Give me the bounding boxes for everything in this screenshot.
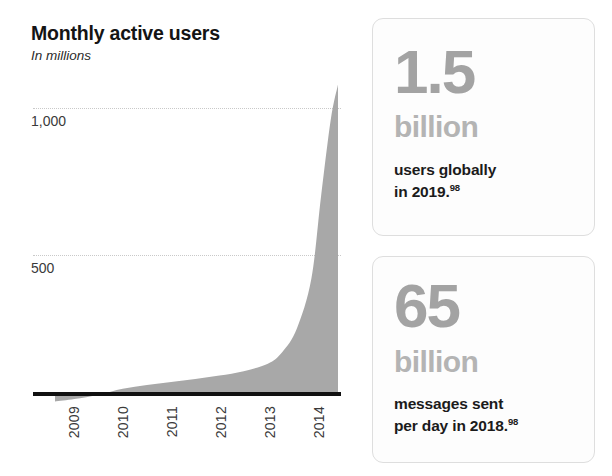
x-axis-tick-2013: 2013 <box>262 406 278 438</box>
stat-unit: billion <box>394 347 478 377</box>
chart-plot-area: 1,000 500 2009 2010 2011 2012 2013 2014 <box>0 0 360 476</box>
stat-number: 1.5 <box>394 41 474 103</box>
stat-unit: billion <box>394 112 478 142</box>
x-axis-baseline <box>33 392 341 396</box>
stat-description: messages sent per day in 2018.98 <box>394 393 582 437</box>
chart-panel: Monthly active users In millions 1,000 5… <box>0 0 360 476</box>
stat-description-line2: per day in 2018. <box>394 417 508 434</box>
stat-description-line2: in 2019. <box>394 183 450 200</box>
x-axis-tick-2011: 2011 <box>164 406 180 437</box>
x-axis-tick-2010: 2010 <box>115 406 131 438</box>
stat-description: users globally in 2019.98 <box>394 159 582 203</box>
stat-description-line1: messages sent <box>394 395 503 412</box>
stat-card-messages-sent: 65 billion messages sent per day in 2018… <box>372 256 595 463</box>
stat-footnote-marker: 98 <box>508 416 518 427</box>
x-axis-tick-2014: 2014 <box>311 406 327 438</box>
stat-footnote-marker: 98 <box>450 182 460 193</box>
x-axis-tick-2012: 2012 <box>213 406 229 438</box>
stat-description-line1: users globally <box>394 161 496 178</box>
area-series-monthly-active-users <box>0 0 360 476</box>
stat-card-users-globally: 1.5 billion users globally in 2019.98 <box>372 18 595 236</box>
stat-number: 65 <box>394 275 459 337</box>
x-axis-tick-2009: 2009 <box>66 406 82 438</box>
